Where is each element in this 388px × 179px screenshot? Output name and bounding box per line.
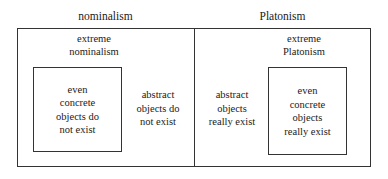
inner-box-right-line-1: even (284, 84, 330, 98)
region-label-extreme-nominalism: extreme nominalism (24, 33, 164, 58)
region-label-extreme-nominalism-line2: nominalism (24, 46, 164, 59)
heading-nominalism-text: nominalism (78, 10, 132, 22)
inner-box-extreme-platonism: even concrete objects really exist (268, 67, 347, 155)
half-divider (194, 28, 195, 167)
heading-platonism: Platonism (194, 10, 371, 23)
right-half-outside-line-2: objects (196, 102, 268, 116)
region-label-extreme-platonism-line2: Platonism (244, 46, 364, 59)
region-label-extreme-platonism-line1: extreme (244, 33, 364, 46)
left-half-outside-line-2: objects do (124, 102, 192, 116)
diagram-canvas: nominalism Platonism extreme nominalism … (0, 0, 388, 179)
heading-platonism-text: Platonism (259, 10, 305, 22)
right-half-outside-text: abstract objects really exist (196, 88, 268, 129)
right-half-outside-line-1: abstract (196, 88, 268, 102)
left-half-outside-line-3: not exist (124, 115, 192, 129)
inner-box-left-text: even concrete objects do not exist (54, 83, 101, 137)
inner-box-right-line-4: really exist (284, 125, 330, 139)
inner-box-left-line-2: concrete (56, 96, 99, 110)
inner-box-right-line-3: objects (284, 111, 330, 125)
left-half-outside-line-1: abstract (124, 88, 192, 102)
heading-nominalism: nominalism (17, 10, 194, 23)
inner-box-left-line-3: objects do (56, 110, 99, 124)
right-half-outside-line-3: really exist (196, 115, 268, 129)
region-label-extreme-platonism: extreme Platonism (244, 33, 364, 58)
inner-box-left-line-4: not exist (56, 123, 99, 137)
inner-box-extreme-nominalism: even concrete objects do not exist (33, 67, 122, 152)
inner-box-right-text: even concrete objects really exist (282, 84, 332, 138)
inner-box-left-line-1: even (56, 83, 99, 97)
inner-box-right-line-2: concrete (284, 98, 330, 112)
left-half-outside-text: abstract objects do not exist (124, 88, 192, 129)
region-label-extreme-nominalism-line1: extreme (24, 33, 164, 46)
